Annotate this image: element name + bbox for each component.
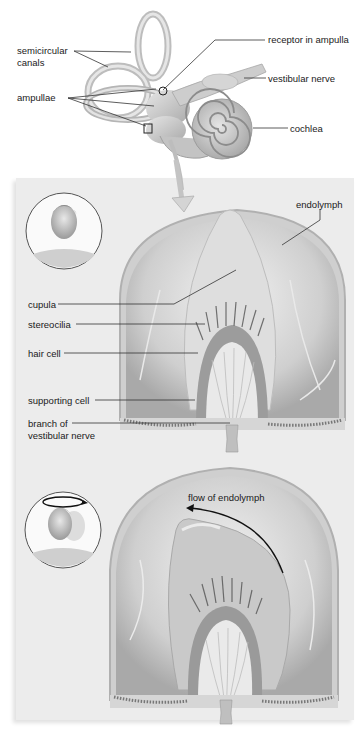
label-vestibular-nerve: vestibular nerve	[268, 73, 335, 84]
label-vestibular-nerve-branch: vestibular nerve	[28, 430, 95, 441]
label-semicircular: semicircular	[17, 45, 68, 56]
head-rotating-icon	[25, 492, 101, 568]
label-canals: canals	[17, 57, 44, 68]
label-flow-of-endolymph: flow of endolymph	[188, 492, 265, 503]
ampulla-rest-illustration	[120, 210, 345, 452]
label-endolymph: endolymph	[296, 199, 342, 210]
ampulla-rotating-illustration	[110, 468, 338, 724]
label-receptor-in-ampulla: receptor in ampulla	[268, 34, 349, 45]
diagram-artwork	[0, 0, 363, 732]
head-at-rest-icon	[26, 193, 102, 269]
label-cupula: cupula	[28, 299, 56, 310]
label-ampullae: ampullae	[17, 92, 56, 103]
label-hair-cell: hair cell	[28, 348, 61, 359]
label-stereocilia: stereocilia	[28, 319, 71, 330]
label-cochlea: cochlea	[290, 123, 323, 134]
label-branch-of: branch of	[28, 418, 68, 429]
label-supporting-cell: supporting cell	[28, 395, 89, 406]
